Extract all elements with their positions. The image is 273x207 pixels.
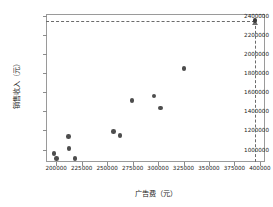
data-point-marker — [66, 134, 71, 139]
data-point-marker — [54, 156, 59, 161]
x-tick-mark — [234, 162, 235, 166]
y-tick-mark — [43, 130, 47, 131]
x-tick-mark — [82, 162, 83, 166]
x-tick-mark — [107, 162, 108, 166]
x-axis-title: 广告费（元） — [46, 188, 265, 198]
y-tick-mark — [43, 35, 47, 36]
y-tick-mark — [43, 16, 47, 17]
y-tick-label: 2400000 — [229, 13, 273, 19]
prediction-vertical-guide — [255, 21, 256, 162]
y-tick-label: 1200000 — [229, 127, 273, 133]
y-tick-mark — [43, 150, 47, 151]
prediction-point-marker — [253, 18, 258, 23]
y-tick-label: 1800000 — [229, 70, 273, 76]
data-point-marker — [67, 146, 72, 151]
x-tick-mark — [56, 162, 57, 166]
prediction-horizontal-guide — [46, 21, 255, 22]
y-tick-label: 1600000 — [229, 89, 273, 95]
x-tick-mark — [158, 162, 159, 166]
y-tick-mark — [43, 54, 47, 55]
y-tick-mark — [43, 111, 47, 112]
data-point-marker — [73, 156, 78, 161]
x-tick-mark — [184, 162, 185, 166]
data-point-marker — [111, 129, 116, 134]
x-tick-mark — [260, 162, 261, 166]
x-tick-mark — [133, 162, 134, 166]
y-tick-mark — [43, 73, 47, 74]
y-tick-label: 2200000 — [229, 32, 273, 38]
y-tick-mark — [43, 92, 47, 93]
y-tick-label: 1400000 — [229, 108, 273, 114]
y-axis-title: 销售收入（元） — [11, 24, 21, 144]
scatter-chart-figure: 1000000120000014000001600000180000020000… — [0, 0, 273, 207]
y-tick-label: 1000000 — [229, 147, 273, 153]
data-point-marker — [118, 133, 123, 138]
y-tick-label: 2000000 — [229, 51, 273, 57]
data-point-marker — [52, 151, 57, 156]
x-tick-mark — [209, 162, 210, 166]
